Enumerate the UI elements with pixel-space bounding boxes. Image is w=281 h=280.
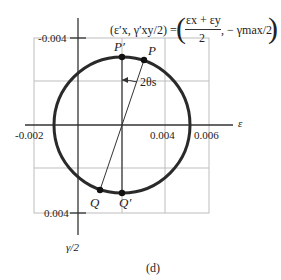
y-tick-bottom: 0.004 xyxy=(44,208,69,219)
point-p xyxy=(141,57,147,63)
point-p-prime xyxy=(119,54,125,60)
annotation-frac-den: 2 xyxy=(199,32,205,44)
label-p: P xyxy=(148,44,156,57)
angle-label: 2θs xyxy=(140,76,156,88)
annotation-paren-close: ) xyxy=(268,13,278,43)
x-axis-label: ε xyxy=(238,118,242,129)
annotation-lhs: (ε′x, γ′xy/2) = xyxy=(110,24,177,36)
figure-caption: (d) xyxy=(146,262,160,274)
y-tick-top: -0.004 xyxy=(38,33,66,44)
annotation-frac-bar xyxy=(185,29,221,30)
label-q-prime: Q′ xyxy=(119,196,131,209)
label-p-prime: P′ xyxy=(114,40,125,53)
y-axis-label: γ/2 xyxy=(66,242,79,253)
x-tick-004: 0.004 xyxy=(150,130,175,141)
angle-arrowhead xyxy=(122,77,128,83)
x-tick-neg: -0.002 xyxy=(15,130,43,141)
point-q xyxy=(97,187,103,193)
label-q: Q xyxy=(90,196,99,209)
annotation-frac-num: εx + εy xyxy=(186,14,221,26)
x-tick-006: 0.006 xyxy=(194,130,219,141)
annotation-paren-open: ( xyxy=(176,13,186,43)
annotation-rhs: , − γmax/2 xyxy=(221,24,272,36)
